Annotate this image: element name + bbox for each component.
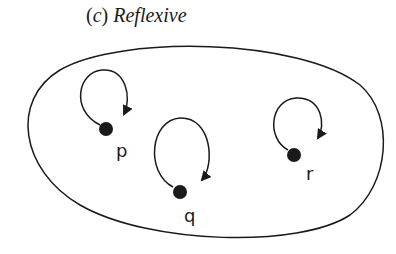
self-loop-p bbox=[81, 70, 128, 125]
self-loop-r bbox=[274, 98, 322, 150]
label-q: q bbox=[184, 205, 195, 226]
node-p: p bbox=[81, 70, 128, 161]
self-loop-q bbox=[155, 118, 210, 187]
vertex-r bbox=[287, 148, 301, 162]
vertex-p bbox=[99, 122, 113, 136]
relation-diagram: p q r bbox=[0, 0, 396, 254]
node-r: r bbox=[274, 98, 322, 184]
label-p: p bbox=[116, 140, 127, 161]
vertex-q bbox=[173, 185, 187, 199]
set-boundary bbox=[28, 46, 383, 237]
node-q: q bbox=[155, 118, 210, 226]
label-r: r bbox=[306, 163, 314, 184]
